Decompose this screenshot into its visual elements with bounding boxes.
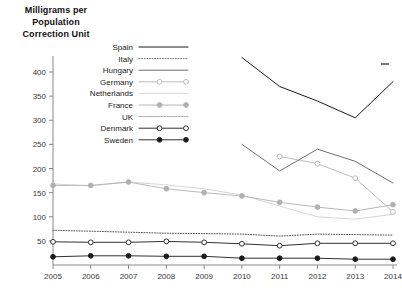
series-marker [126,180,131,185]
legend-label: Sweden [104,136,133,145]
series-marker [353,241,358,246]
series-marker [202,254,207,259]
series-marker [239,241,244,246]
x-tick-label: 2005 [44,272,62,281]
legend-label: UK [122,113,134,122]
y-tick-label: 100 [33,213,47,222]
series-marker [51,239,56,244]
legend-marker-sample [184,79,189,84]
series-marker [164,186,169,191]
x-tick-label: 2006 [82,272,100,281]
y-tick-label: 400 [33,68,47,77]
series-marker [315,161,320,166]
series-sweden [51,253,396,261]
series-marker [315,256,320,261]
series-marker [391,257,396,262]
series-netherlands [53,182,393,219]
series-marker [277,200,282,205]
legend-label: France [108,101,133,110]
series-marker [353,209,358,214]
x-tick-label: 2007 [120,272,138,281]
y-tick-label: 150 [33,189,47,198]
x-tick-label: 2011 [271,272,289,281]
series-marker [315,205,320,210]
series-denmark [51,239,396,248]
series-marker [126,253,131,258]
legend-label: Hungary [103,66,133,75]
series-marker [51,183,56,188]
series-france [51,180,396,214]
legend-item-denmark[interactable]: Denmark [101,124,189,133]
series-germany [277,154,395,214]
legend-label: Netherlands [90,89,133,98]
chart-legend: SpainItalyHungaryGermanyNetherlandsFranc… [90,43,389,145]
series-line [53,230,393,236]
line-chart-plot: 50100150200250300350400 2005200620072008… [0,0,402,294]
legend-item-spain[interactable]: Spain [113,43,188,52]
series-marker [164,239,169,244]
legend-marker-sample [184,126,189,131]
chart-series-group [51,58,396,262]
y-tick-label: 350 [33,92,47,101]
series-marker [391,241,396,246]
x-tick-label: 2013 [346,272,364,281]
legend-marker-sample [157,103,162,108]
x-tick-label: 2014 [384,272,402,281]
legend-marker-sample [157,137,162,142]
legend-marker-sample [184,137,189,142]
x-tick-label: 2008 [157,272,175,281]
legend-label: Spain [113,43,133,52]
x-axis-ticks: 2005200620072008200920102011201220132014 [44,265,402,281]
legend-item-netherlands[interactable]: Netherlands [90,89,188,98]
x-tick-label: 2009 [195,272,213,281]
series-marker [88,240,93,245]
legend-item-germany[interactable]: Germany [100,78,188,87]
legend-marker-sample [157,126,162,131]
legend-item-hungary[interactable]: Hungary [103,66,188,75]
series-marker [88,253,93,258]
series-italy [53,230,393,236]
series-marker [391,202,396,207]
series-marker [277,243,282,248]
series-marker [126,240,131,245]
legend-label: Italy [118,55,133,64]
legend-label: Denmark [101,124,134,133]
legend-label: Germany [100,78,133,87]
legend-item-sweden[interactable]: Sweden [104,136,188,145]
chart-container: Milligrams per Population Correction Uni… [0,0,402,294]
series-marker [51,254,56,259]
y-tick-label: 300 [33,116,47,125]
series-marker [391,210,396,215]
series-line [53,182,393,219]
series-marker [239,194,244,199]
series-marker [202,190,207,195]
y-tick-label: 250 [33,140,47,149]
legend-marker-sample [157,79,162,84]
series-marker [353,176,358,181]
series-line [53,256,393,259]
y-tick-label: 200 [33,165,47,174]
legend-marker-sample [184,103,189,108]
series-marker [277,256,282,261]
series-marker [239,256,244,261]
legend-item-france[interactable]: France [108,101,188,110]
series-marker [315,241,320,246]
series-line [53,182,393,211]
series-marker [353,257,358,262]
y-tick-label: 50 [37,237,46,246]
series-marker [88,183,93,188]
series-line [53,241,393,245]
series-marker [202,240,207,245]
series-marker [164,254,169,259]
series-marker [277,154,282,159]
legend-item-uk[interactable]: UK [122,113,188,122]
x-tick-label: 2012 [309,272,327,281]
series-line [280,156,393,212]
y-axis-ticks: 50100150200250300350400 [33,68,53,246]
series-line [242,58,393,118]
x-tick-label: 2010 [233,272,251,281]
legend-item-italy[interactable]: Italy [118,55,188,64]
series-spain [242,58,393,118]
